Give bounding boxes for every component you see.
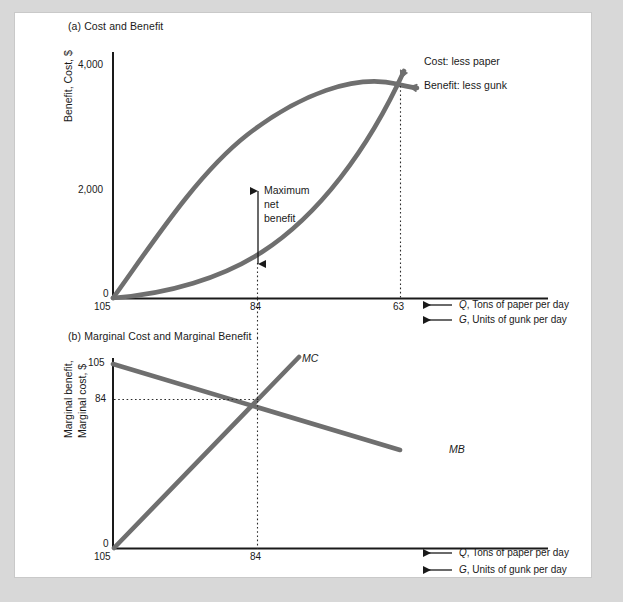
panel-b-q-text: , Tons of paper per day [467, 547, 569, 558]
panel-a-g-axis-legend: G, Units of gunk per day [459, 314, 567, 326]
panel-b-ytick-105: 105 [88, 357, 105, 369]
panel-a-ytick-0: 0 [103, 288, 109, 300]
benefit-curve-tail-panel-a [397, 84, 417, 88]
panel-a-title: (a) Cost and Benefit [68, 20, 163, 32]
panel-b-y-axis-label-line1: Marginal benefit, [62, 360, 75, 438]
panel-b-ytick-0: 0 [103, 538, 109, 550]
cost-curve-panel-a [113, 71, 404, 298]
panel-a-xtick-63: 63 [393, 301, 404, 313]
benefit-curve-label: Benefit: less gunk [424, 79, 507, 91]
panel-b-ytick-84: 84 [95, 393, 106, 405]
panel-b-y-axis-label-line2: Marginal cost, $ [76, 364, 89, 438]
figure-stage: (a) Cost and Benefit Benefit, Cost, $ 4,… [0, 0, 623, 602]
panel-a-y-axis-label: Benefit, Cost, $ [62, 50, 75, 122]
panel-a-g-var: G [459, 314, 467, 325]
panel-b-g-var: G [459, 564, 467, 575]
panel-a-q-axis-legend: Q, Tons of paper per day [459, 299, 569, 311]
panel-a-ytick-2000: 2,000 [78, 184, 103, 196]
mb-curve-panel-b [113, 364, 400, 450]
panel-b-axes [113, 358, 548, 549]
max-net-benefit-line1: Maximum [264, 184, 310, 196]
benefit-curve-panel-a [113, 81, 397, 298]
panel-a-ytick-4000: 4,000 [78, 59, 103, 71]
panel-b-q-axis-legend: Q, Tons of paper per day [459, 547, 569, 559]
max-net-benefit-line3: benefit [264, 212, 296, 224]
panel-b-g-axis-legend: G, Units of gunk per day [459, 564, 567, 576]
cost-curve-label: Cost: less paper [424, 55, 500, 67]
mc-curve-panel-b [114, 357, 299, 548]
panel-a-xtick-84: 84 [250, 301, 261, 313]
mb-curve-label: MB [449, 443, 465, 455]
panel-b-g-text: , Units of gunk per day [467, 564, 567, 575]
max-net-benefit-line2: net [264, 198, 279, 210]
panel-a-q-text: , Tons of paper per day [467, 299, 569, 310]
panel-b-xtick-105: 105 [94, 551, 111, 563]
panel-b-xtick-84: 84 [250, 551, 261, 563]
panel-b-q-var: Q [459, 547, 467, 558]
panel-a-q-var: Q [459, 299, 467, 310]
panel-a-xtick-105: 105 [94, 301, 111, 313]
mc-curve-label: MC [302, 352, 318, 364]
panel-a-g-text: , Units of gunk per day [467, 314, 567, 325]
panel-b-title: (b) Marginal Cost and Marginal Benefit [68, 330, 252, 342]
